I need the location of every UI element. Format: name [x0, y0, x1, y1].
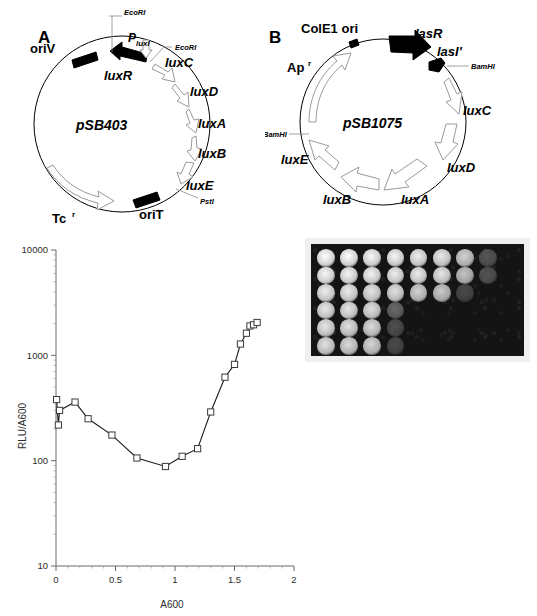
bioluminescence-growth-chart: 1010010001000000.511.52 A600 RLU/A600 — [12, 236, 300, 616]
plate-spot — [317, 267, 335, 285]
feature-tcr-arrow — [47, 165, 114, 210]
plate-spot — [340, 284, 358, 302]
data-point-marker — [53, 397, 59, 403]
data-line — [57, 323, 258, 467]
feature-label-luxe-b: luxE — [281, 152, 309, 167]
feature-luxc-arrow-b — [444, 78, 462, 114]
x-tick-label: 0 — [53, 574, 58, 585]
feature-label-lasr: lasR — [415, 26, 443, 41]
plate-spot — [363, 319, 381, 337]
plate-spot — [387, 337, 405, 355]
data-point-marker — [162, 463, 168, 469]
plate-spot — [433, 267, 451, 285]
plasmid-name-a: pSB403 — [75, 117, 128, 133]
plate-frame — [305, 238, 530, 362]
x-tick-label: 2 — [291, 574, 296, 585]
plate-spot — [317, 284, 335, 302]
plate-spot — [410, 249, 428, 267]
plate-spot — [340, 302, 358, 320]
plate-spot — [363, 249, 381, 267]
chart-series — [53, 319, 260, 469]
y-tick-label: 10 — [37, 560, 48, 571]
plate-spot — [363, 302, 381, 320]
feature-luxe-arrow-b — [309, 140, 339, 170]
promoter-subscript: luxI — [136, 39, 151, 48]
plate-spot — [363, 284, 381, 302]
feature-luxb-arrow-b — [341, 167, 379, 192]
feature-label-cole1: ColE1 ori — [301, 21, 358, 36]
plate-spot — [387, 319, 405, 337]
y-tick-label: 100 — [32, 455, 48, 466]
plate-spot — [456, 249, 474, 267]
data-point-marker — [179, 453, 185, 459]
plate-spot — [340, 249, 358, 267]
chart-svg: 1010010001000000.511.52 A600 RLU/A600 — [12, 236, 300, 616]
plate-spot — [317, 249, 335, 267]
data-point-marker — [231, 361, 237, 367]
feature-apr-arrow — [309, 53, 351, 122]
panel-a-svg: EcoRI EcoRI PstI P luxI oriV luxR luxC l… — [0, 0, 268, 232]
x-axis-title: A600 — [160, 599, 184, 610]
plate-spot — [433, 284, 451, 302]
feature-label-luxc: luxC — [165, 55, 194, 70]
feature-label-luxa: luxA — [198, 116, 226, 131]
x-tick-label: 1.5 — [228, 574, 241, 585]
data-point-marker — [109, 432, 115, 438]
feature-label-ap-superscript: r — [308, 59, 311, 68]
data-point-marker — [134, 455, 140, 461]
data-point-marker — [222, 374, 228, 380]
feature-luxd-arrow-b — [435, 124, 458, 160]
leader-ecori-2 — [150, 47, 164, 62]
feature-label-luxb: luxB — [198, 146, 226, 161]
plate-spot — [363, 267, 381, 285]
data-point-marker — [243, 330, 249, 336]
data-point-marker — [254, 319, 260, 325]
plate-photo-panel — [305, 238, 530, 362]
feature-label-lasi: lasI' — [437, 44, 463, 59]
feature-label-tc-superscript: r — [72, 210, 75, 219]
plate-spot — [363, 337, 381, 355]
plate-spot — [456, 284, 474, 302]
y-tick-label: 1000 — [27, 350, 48, 361]
feature-label-luxc-b: luxC — [463, 103, 492, 118]
plate-dark-background — [311, 244, 524, 356]
data-point-marker — [195, 446, 201, 452]
x-tick-label: 0.5 — [109, 574, 122, 585]
feature-cole1-marker — [349, 39, 359, 48]
site-psti: PstI — [200, 197, 215, 206]
panel-b-svg: BamHI BamHI ColE1 ori lasR lasI' luxC lu… — [265, 0, 537, 232]
site-bamhi-left: BamHI — [265, 130, 288, 139]
panel-a-plasmid-map: EcoRI EcoRI PstI P luxI oriV luxR luxC l… — [0, 0, 268, 232]
feature-luxd-arrow — [172, 84, 189, 107]
plate-spot — [410, 284, 428, 302]
feature-oriv-arrow — [72, 52, 98, 68]
panel-letter-a: A — [38, 28, 50, 47]
plate-spot — [479, 249, 497, 267]
plate-spot — [340, 337, 358, 355]
feature-label-luxb-b: luxB — [323, 192, 351, 207]
site-bamhi-right: BamHI — [471, 62, 496, 71]
y-axis-title: RLU/A600 — [17, 402, 28, 449]
plate-spot — [479, 267, 497, 285]
plate-spot — [340, 319, 358, 337]
data-point-marker — [85, 416, 91, 422]
y-tick-label: 10000 — [22, 244, 48, 255]
feature-label-luxr: luxR — [104, 68, 133, 83]
feature-luxa-arrow-b — [384, 159, 427, 190]
plasmid-name-b: pSB1075 — [342, 115, 402, 131]
data-point-marker — [55, 422, 61, 428]
plate-spot — [317, 319, 335, 337]
plate-spot — [433, 249, 451, 267]
feature-label-luxe: luxE — [186, 178, 214, 193]
feature-lasi-arrow — [429, 58, 445, 72]
plate-spot — [387, 284, 405, 302]
site-ecori-top: EcoRI — [124, 8, 146, 17]
feature-label-tc: Tc — [52, 211, 66, 226]
plate-spot — [340, 267, 358, 285]
feature-label-orit: oriT — [139, 207, 164, 222]
panel-b-plasmid-map: BamHI BamHI ColE1 ori lasR lasI' luxC lu… — [265, 0, 537, 232]
plate-spot — [456, 267, 474, 285]
plate-spot — [387, 267, 405, 285]
data-point-marker — [208, 409, 214, 415]
plate-spot — [387, 249, 405, 267]
